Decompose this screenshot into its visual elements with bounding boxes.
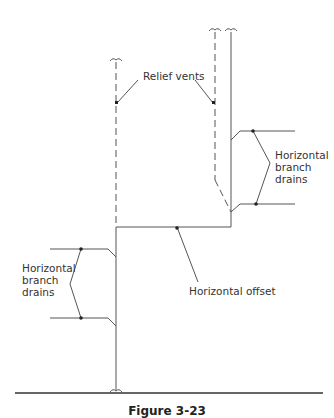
- figure-caption: Figure 3-23: [0, 404, 334, 418]
- horizontal-offset-label: Horizontal offset: [189, 285, 276, 297]
- upper-stack-break-icon: [225, 29, 237, 31]
- relief-vents-label: Relief vents: [143, 70, 205, 82]
- left-branch-drain-upper: [50, 249, 116, 257]
- horizontal-branch-drains-left-label: Horizontal branch drains: [22, 262, 76, 298]
- right-branch-drain-lower: [231, 204, 295, 212]
- horizontal-branch-drains-right-label: Horizontal branch drains: [275, 149, 329, 185]
- left-vent-break-icon: [110, 59, 122, 61]
- lower-stack-break-icon: [110, 390, 122, 392]
- right-vent-break-icon: [209, 29, 221, 31]
- right-branch-drain-upper: [231, 131, 295, 140]
- left-branch-drain-lower: [50, 318, 116, 326]
